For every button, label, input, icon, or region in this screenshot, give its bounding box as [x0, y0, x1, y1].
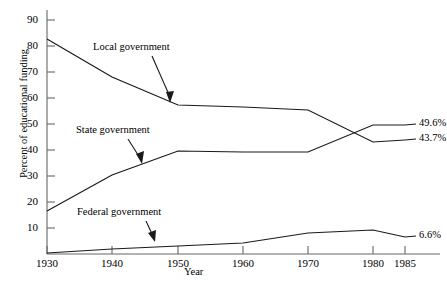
- y-axis-title: Percent of educational funding: [18, 39, 29, 189]
- series-line-federal-government: [47, 230, 405, 253]
- series-line-state-government: [47, 125, 405, 211]
- end-label-state-government: 49.6%: [419, 118, 446, 129]
- arrow-line-local: [152, 56, 170, 97]
- x-tick-label-1985: 1985: [385, 258, 425, 269]
- end-label-local-government: 43.7%: [419, 133, 446, 144]
- x-tick-label-1970: 1970: [288, 258, 328, 269]
- annotation-local-government: Local government: [93, 42, 170, 53]
- annotation-federal-government: Federal government: [77, 207, 161, 218]
- x-tick-label-1930: 1930: [27, 258, 67, 269]
- arrow-head-federal: [148, 230, 156, 242]
- annotation-state-government: State government: [76, 125, 150, 136]
- y-tick-label-10: 10: [12, 222, 38, 233]
- y-tick-label-90: 90: [12, 14, 38, 25]
- y-tick-label-20: 20: [12, 196, 38, 207]
- line-chart-plot: [0, 0, 447, 282]
- leader-line-local: [405, 139, 416, 140]
- end-label-federal-government: 6.6%: [419, 230, 441, 241]
- arrow-head-local: [166, 91, 174, 103]
- y-tick-marks: [47, 20, 55, 228]
- leader-line-federal: [405, 236, 416, 237]
- leader-line-state: [405, 124, 416, 125]
- chart-figure: 90 80 70 60 50 40 30 20 10 1930 1940 195…: [0, 0, 447, 282]
- x-axis-title: Year: [184, 266, 203, 277]
- x-tick-label-1940: 1940: [92, 258, 132, 269]
- x-tick-label-1960: 1960: [223, 258, 263, 269]
